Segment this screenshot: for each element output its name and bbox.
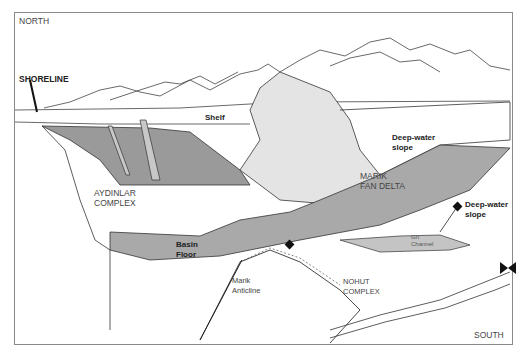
marik-anticline-line2: Anticline [232,286,260,296]
gn-channel [340,235,470,252]
nohut-line2: COMPLEX [343,287,380,297]
shelf-label: Shelf [205,113,225,123]
aydinlar-line2: COMPLEX [94,198,136,208]
basin-floor-line1: Basin [176,240,198,250]
marik-fan-line2: FAN DELTA [360,181,405,191]
well-marker-2 [453,202,463,212]
block-diagram-artwork [0,0,524,357]
north-label: NORTH [19,16,49,26]
south-label: SOUTH [474,330,504,340]
shoreline-pointer [30,80,37,112]
aydinlar-line1: AYDINLAR [94,188,136,198]
fault-symbol [500,262,516,274]
deep-water-slope-1-line1: Deep-water [392,133,435,143]
basin-floor-line2: Floor [176,250,196,260]
marik-anticline-line1: Marik [232,276,250,286]
deep-water-slope-1-line2: slope [392,143,413,153]
nohut-line1: NOHUT [343,277,370,287]
gn-channel-line1: Gn [411,234,419,241]
deep-water-slope-2-line1: Deep-water [465,200,508,210]
shoreline-label: SHORELINE [19,74,69,84]
marik-fan-line1: MARIK [360,171,387,181]
marik-anticline [200,250,360,343]
gn-channel-line2: Channel [411,241,433,248]
deep-water-slope-2-line2: slope [465,210,486,220]
